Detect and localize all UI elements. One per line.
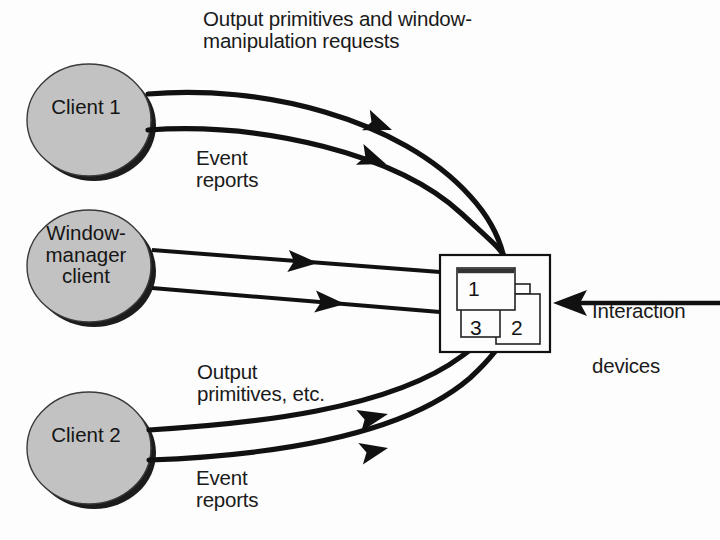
client-1-ellipse (27, 64, 151, 176)
wm-client-ellipse (27, 210, 151, 322)
diagram-graphics (0, 0, 720, 540)
edge-devices-to-display (553, 290, 720, 316)
window-1-title-bar (458, 269, 514, 273)
client-2-ellipse (27, 392, 151, 504)
node-client-2[interactable] (27, 392, 156, 509)
diagram-canvas: Output primitives and window- manipulati… (0, 0, 720, 540)
window-1[interactable] (457, 268, 515, 310)
edge-wm-to-display (152, 288, 440, 315)
node-client-1[interactable] (27, 64, 156, 181)
display-screen-box[interactable] (440, 255, 550, 352)
edge-client1-to-display (148, 92, 503, 254)
node-window-manager-client[interactable] (27, 210, 156, 327)
edge-display-to-wm (152, 250, 440, 274)
edge-display-to-client1 (148, 129, 504, 256)
arrowhead-display-to-client2 (358, 437, 390, 464)
